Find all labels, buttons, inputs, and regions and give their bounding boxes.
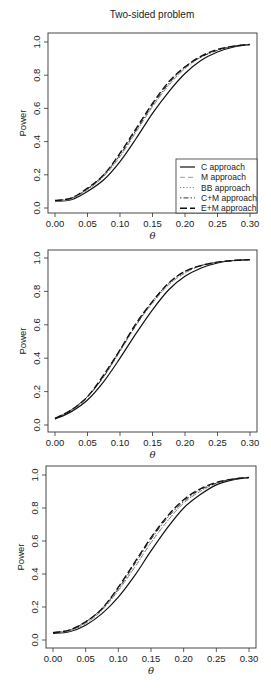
x-tick-label: 0.15 xyxy=(143,437,162,448)
y-tick-label: 1.0 xyxy=(31,251,42,264)
y-tick-label: 0.8 xyxy=(31,69,42,82)
y-tick-label: 0.4 xyxy=(29,567,40,580)
x-axis: 0.000.050.100.150.200.250.30θ xyxy=(44,648,259,676)
x-tick-label: 0.20 xyxy=(176,437,195,448)
y-axis: 0.00.20.40.60.81.0Power xyxy=(15,468,46,646)
x-tick-label: 0.30 xyxy=(241,437,260,448)
x-tick-label: 0.30 xyxy=(240,653,259,664)
y-tick-label: 0.4 xyxy=(31,135,42,148)
series-group xyxy=(53,477,249,633)
figure-canvas: Two-sided problem 0.000.050.100.150.200.… xyxy=(0,0,271,700)
y-tick-label: 0.2 xyxy=(29,600,40,613)
x-tick-label: 0.15 xyxy=(143,218,162,229)
series-line-c-m-approach xyxy=(53,477,249,632)
series-line-bb-approach xyxy=(55,260,250,419)
legend-label: BB approach xyxy=(201,183,250,193)
legend-label: M approach xyxy=(201,172,246,182)
y-tick-label: 0.0 xyxy=(29,633,40,646)
y-axis-title: Power xyxy=(17,110,28,137)
y-tick-label: 0.6 xyxy=(29,534,40,547)
x-tick-label: 0.00 xyxy=(44,653,63,664)
plot-frame xyxy=(46,466,256,648)
y-axis-title: Power xyxy=(15,544,26,571)
x-tick-label: 0.00 xyxy=(46,437,65,448)
y-tick-label: 0.0 xyxy=(31,201,42,214)
x-tick-label: 0.10 xyxy=(111,218,130,229)
x-tick-label: 0.25 xyxy=(207,653,226,664)
y-tick-label: 1.0 xyxy=(31,35,42,48)
series-line-c-approach xyxy=(55,260,250,419)
x-tick-label: 0.20 xyxy=(174,653,193,664)
figure-title: Two-sided problem xyxy=(110,9,194,20)
plot-frame xyxy=(48,250,257,432)
y-axis-title: Power xyxy=(17,328,28,355)
x-tick-label: 0.00 xyxy=(46,218,65,229)
x-tick-label: 0.05 xyxy=(78,218,97,229)
plot-panel-bottom: 0.000.050.100.150.200.250.30θ0.00.20.40.… xyxy=(15,466,258,676)
x-tick-label: 0.25 xyxy=(208,218,227,229)
plot-panel-middle: 0.000.050.100.150.200.250.30θ0.00.20.40.… xyxy=(17,250,259,460)
y-tick-label: 0.4 xyxy=(31,352,42,365)
legend-label: C+M approach xyxy=(201,193,257,203)
y-axis: 0.00.20.40.60.81.0Power xyxy=(17,35,48,214)
x-tick-label: 0.30 xyxy=(241,218,260,229)
x-axis: 0.000.050.100.150.200.250.30θ xyxy=(46,213,260,241)
series-line-m-approach xyxy=(53,477,249,632)
legend-label: C approach xyxy=(201,162,245,172)
series-line-c-approach xyxy=(53,477,249,633)
series-line-e-m-approach xyxy=(55,260,250,419)
legend-label: E+M approach xyxy=(201,203,257,213)
y-tick-label: 0.8 xyxy=(29,501,40,514)
x-tick-label: 0.10 xyxy=(109,653,128,664)
legend: C approachM approachBB approachC+M appro… xyxy=(176,159,257,213)
y-tick-label: 0.6 xyxy=(31,318,42,331)
y-tick-label: 0.6 xyxy=(31,102,42,115)
x-tick-label: 0.20 xyxy=(176,218,195,229)
x-tick-label: 0.25 xyxy=(208,437,227,448)
series-line-m-approach xyxy=(55,260,250,419)
x-tick-label: 0.05 xyxy=(78,437,97,448)
series-line-e-m-approach xyxy=(53,477,249,632)
y-axis: 0.00.20.40.60.81.0Power xyxy=(17,251,48,431)
x-axis-title: θ xyxy=(148,665,154,676)
x-axis-title: θ xyxy=(149,230,155,241)
x-tick-label: 0.10 xyxy=(111,437,130,448)
series-group xyxy=(55,260,250,419)
y-tick-label: 1.0 xyxy=(29,468,40,481)
x-axis: 0.000.050.100.150.200.250.30θ xyxy=(46,432,260,460)
y-tick-label: 0.2 xyxy=(31,168,42,181)
x-tick-label: 0.05 xyxy=(76,653,95,664)
x-axis-title: θ xyxy=(149,449,155,460)
x-tick-label: 0.15 xyxy=(142,653,161,664)
series-line-bb-approach xyxy=(53,477,249,632)
series-line-c-m-approach xyxy=(55,260,250,419)
y-tick-label: 0.8 xyxy=(31,285,42,298)
y-tick-label: 0.0 xyxy=(31,418,42,431)
y-tick-label: 0.2 xyxy=(31,385,42,398)
